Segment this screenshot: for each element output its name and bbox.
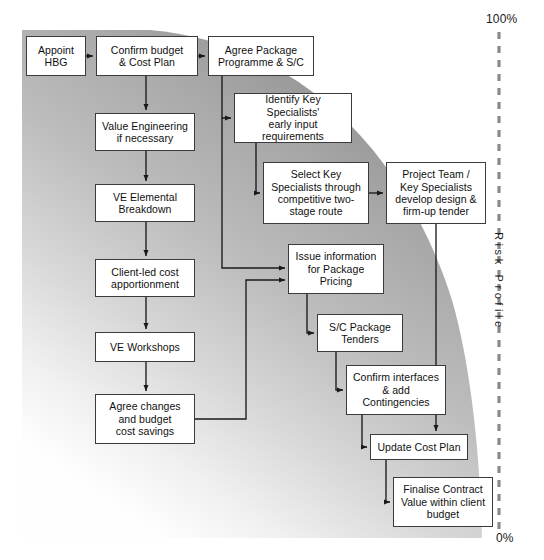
node-sc-package-tenders[interactable]: S/C Package Tenders — [317, 314, 403, 352]
node-update-cost-plan[interactable]: Update Cost Plan — [370, 434, 468, 460]
node-project-team-key-specialists[interactable]: Project Team / Key Specialists develop d… — [386, 162, 486, 224]
node-client-led-cost-apportionment[interactable]: Client-led cost apportionment — [95, 259, 195, 297]
node-confirm-interfaces[interactable]: Confirm interfaces & add Contingencies — [346, 365, 446, 415]
node-appoint-hbg[interactable]: Appoint HBG — [26, 36, 86, 76]
node-agree-changes[interactable]: Agree changes and budget cost savings — [95, 394, 195, 444]
node-ve-elemental-breakdown[interactable]: VE Elemental Breakdown — [95, 184, 195, 222]
node-finalise-contract[interactable]: Finalise Contract Value within client bu… — [393, 477, 493, 527]
risk-profile-axis-title: Risk Profile — [493, 232, 505, 372]
flowchart-diagram: 100% 0% Risk Profile Appoint HBG Confirm… — [0, 0, 544, 560]
risk-axis-dashed-line — [0, 0, 544, 560]
node-ve-workshops[interactable]: VE Workshops — [95, 332, 195, 362]
node-issue-information[interactable]: Issue information for Package Pricing — [288, 244, 384, 294]
node-agree-package-programme[interactable]: Agree Package Programme & S/C — [208, 36, 314, 76]
node-value-engineering[interactable]: Value Engineering if necessary — [95, 113, 195, 151]
node-confirm-budget[interactable]: Confirm budget & Cost Plan — [96, 36, 198, 76]
node-select-key-specialists[interactable]: Select Key Specialists through competiti… — [263, 162, 369, 224]
node-identify-key-specialists[interactable]: Identify Key Specialists' early input re… — [234, 93, 352, 143]
